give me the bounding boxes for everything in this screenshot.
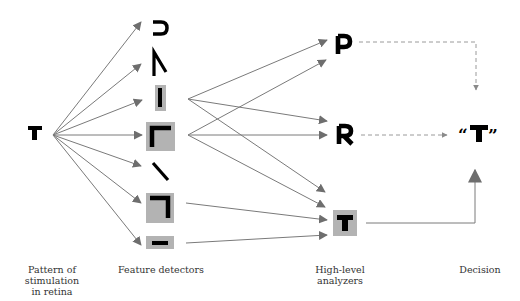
feature-analysis-diagram: “ ” Pattern of stimulation in retina Fea…	[0, 0, 520, 301]
analyzer-t	[333, 210, 357, 236]
decision-output: “ ”	[458, 125, 498, 145]
caption-retina-line1: Pattern of stimulation	[2, 264, 102, 286]
feature-detector-curve	[153, 22, 167, 34]
feature-detector-vertical	[155, 85, 166, 111]
stimulus-letter-t	[28, 126, 42, 140]
caption-decision: Decision	[455, 264, 505, 275]
feature-detector-angle	[154, 52, 166, 76]
feature-detector-corner-top-left	[146, 122, 175, 151]
stimulus-arrows	[53, 22, 142, 245]
analyzer-p	[338, 36, 350, 54]
svg-text:”: ”	[488, 125, 498, 145]
caption-retina-line2: in retina	[2, 286, 102, 297]
feature-detector-horizontal	[146, 236, 174, 249]
caption-high-level-analyzers: High-level analyzers	[310, 264, 370, 286]
caption-analyzers-line1: High-level	[310, 264, 370, 275]
analyzer-r	[339, 126, 352, 144]
caption-decision-text: Decision	[455, 264, 505, 275]
feature-analyzer-arrows	[186, 40, 327, 243]
caption-retina: Pattern of stimulation in retina	[2, 264, 102, 297]
caption-feature-detectors-text: Feature detectors	[116, 264, 206, 275]
caption-analyzers-line2: analyzers	[310, 275, 370, 286]
feature-detector-diagonal	[153, 163, 168, 180]
caption-feature-detectors: Feature detectors	[116, 264, 206, 275]
feature-detector-corner-top-right	[146, 193, 174, 223]
diagram-canvas: “ ”	[0, 0, 520, 301]
svg-text:“: “	[458, 125, 468, 145]
